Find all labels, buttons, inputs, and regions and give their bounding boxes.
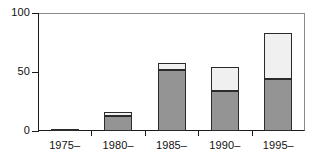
bar-segment-upper <box>211 67 239 91</box>
bar-1995 <box>264 33 292 131</box>
bar-segment-lower <box>264 79 292 131</box>
bar-1990 <box>211 67 239 131</box>
bar-segment-lower <box>158 70 186 131</box>
bar-1975 <box>51 129 79 131</box>
bar-segment-upper <box>264 33 292 79</box>
x-axis-tick <box>252 131 253 136</box>
bar-segment-upper <box>158 63 186 70</box>
y-axis-tick-label: 50 <box>18 66 30 77</box>
x-axis-tick <box>198 131 199 136</box>
x-axis-tick-label: 1975– <box>39 139 91 151</box>
bar-segment-lower <box>104 116 132 131</box>
x-axis-tick-label: 1990– <box>199 139 251 151</box>
y-axis-tick <box>32 13 39 14</box>
x-axis-tick <box>145 131 146 136</box>
bar-segment-lower <box>211 91 239 131</box>
y-axis-tick <box>32 72 39 73</box>
bar-chart: 100500 1975–1980–1985–1990–1995– <box>0 0 317 158</box>
x-axis-tick <box>91 131 92 136</box>
bar-1980 <box>104 112 132 131</box>
x-axis-tick-label: 1980– <box>92 139 144 151</box>
bar-segment-lower <box>51 129 79 131</box>
x-axis-tick-label: 1995– <box>252 139 304 151</box>
y-axis-tick-label: 100 <box>11 7 30 18</box>
y-axis-tick <box>32 131 39 132</box>
x-axis-tick-label: 1985– <box>146 139 198 151</box>
y-axis-tick-label: 0 <box>24 125 30 136</box>
bar-1985 <box>158 63 186 131</box>
